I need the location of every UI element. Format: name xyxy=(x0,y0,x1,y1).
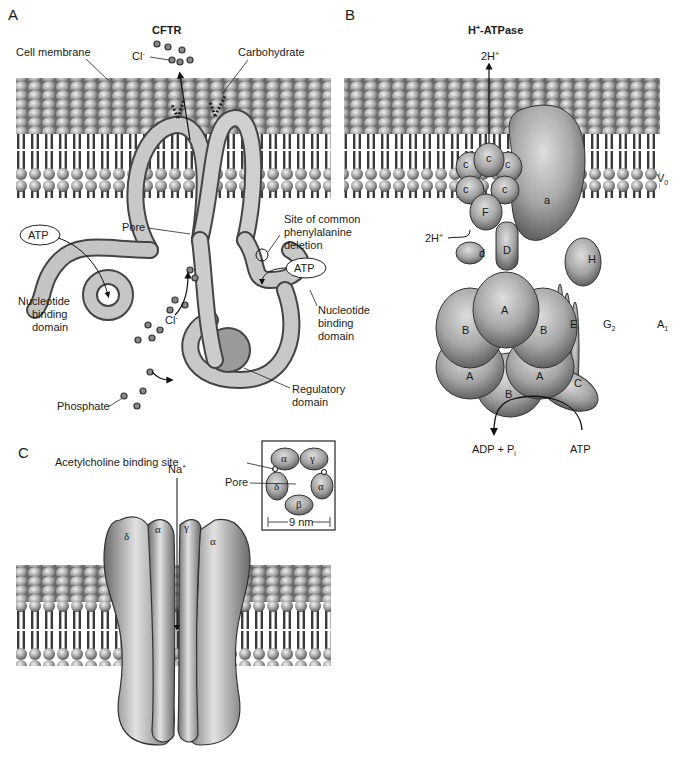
nbd-right-label-3: domain xyxy=(318,330,354,342)
side-subunit-alpha-1: α xyxy=(155,523,161,535)
panel-letter-a: A xyxy=(8,6,18,23)
svg-text:α: α xyxy=(281,452,287,464)
nbd-left-label-2: binding xyxy=(32,308,67,320)
panel-a-cftr: A CFTR xyxy=(8,6,370,412)
svg-text:A: A xyxy=(501,304,509,316)
svg-text:D: D xyxy=(503,244,511,256)
adp-pi-label: ADP + Pi xyxy=(472,443,516,457)
svg-text:B: B xyxy=(505,388,512,400)
h-atpase-title: H+-ATPase xyxy=(468,24,523,36)
atp-label-b: ATP xyxy=(570,443,591,455)
side-subunit-gamma: γ xyxy=(183,521,189,533)
svg-text:c: c xyxy=(502,183,508,195)
svg-text:F: F xyxy=(482,206,489,218)
regulatory-domain-label-1: Regulatory xyxy=(292,383,346,395)
deletion-site-label-2: phenylalanine xyxy=(284,226,352,238)
lipid-bilayer xyxy=(16,134,331,198)
chloride-lower-label: Cl- xyxy=(165,314,178,326)
cell-membrane-label: Cell membrane xyxy=(16,46,91,58)
regulatory-domain-label-2: domain xyxy=(292,396,328,408)
chloride-label: Cl- xyxy=(132,50,145,62)
svg-text:c: c xyxy=(463,158,469,170)
panel-letter-c: C xyxy=(18,444,29,461)
svg-text:E: E xyxy=(570,318,577,330)
svg-text:α: α xyxy=(318,480,324,492)
carbohydrate-label: Carbohydrate xyxy=(238,46,305,58)
figure-canvas: A CFTR xyxy=(0,0,681,768)
ach-binding-site-label: Acetylcholine binding site xyxy=(55,456,179,468)
a1-label: A1 xyxy=(657,318,668,332)
deletion-site-label-3: deletion xyxy=(284,239,323,251)
v0-label: V0 xyxy=(657,172,668,186)
svg-text:B: B xyxy=(462,324,469,336)
deletion-site-label-1: Site of common xyxy=(284,213,360,225)
svg-text:a: a xyxy=(544,194,551,206)
pore-label: Pore xyxy=(122,221,145,233)
svg-text:A: A xyxy=(466,370,474,382)
svg-text:β: β xyxy=(296,498,302,510)
receptor-top-view-inset: α γ δ α β 9 nm xyxy=(262,441,335,530)
membrane-surface-b xyxy=(344,78,660,138)
scale-label: 9 nm xyxy=(289,516,313,528)
pore-label-c: Pore xyxy=(225,476,248,488)
panel-letter-b: B xyxy=(345,6,355,23)
proton-out-label: 2H+ xyxy=(481,50,499,62)
chloride-entry-arrow xyxy=(175,275,188,315)
side-subunit-alpha-2: α xyxy=(210,535,216,547)
phosphate-arrow xyxy=(152,372,170,380)
svg-text:ATP: ATP xyxy=(294,262,315,274)
panel-c-ach-receptor: C Na+ δ α γ α α γ δ α β xyxy=(16,441,335,745)
side-subunit-delta: δ xyxy=(124,530,129,542)
svg-text:ATP: ATP xyxy=(28,229,49,241)
svg-text:c: c xyxy=(463,183,469,195)
svg-text:H: H xyxy=(588,253,596,265)
phosphate-label: Phosphate xyxy=(57,400,110,412)
proton-in-label: 2H+ xyxy=(425,232,443,244)
panel-b-h-atpase: B H+-ATPase 2H+ xyxy=(344,6,668,457)
svg-text:C: C xyxy=(574,377,582,389)
svg-text:c: c xyxy=(505,158,511,170)
svg-text:B: B xyxy=(540,324,547,336)
nbd-left-label-3: domain xyxy=(32,321,68,333)
nbd-right-label-2: binding xyxy=(318,317,353,329)
proton-entry-line xyxy=(448,230,470,238)
g2-label: G2 xyxy=(603,318,616,332)
svg-text:δ: δ xyxy=(274,480,279,492)
svg-text:c: c xyxy=(486,152,492,164)
svg-text:γ: γ xyxy=(309,452,315,464)
cftr-title: CFTR xyxy=(152,24,181,36)
svg-text:d: d xyxy=(479,247,485,259)
nbd-left-label-1: Nucleotide xyxy=(18,295,70,307)
svg-text:A: A xyxy=(536,370,544,382)
nbd-right-label-1: Nucleotide xyxy=(318,304,370,316)
